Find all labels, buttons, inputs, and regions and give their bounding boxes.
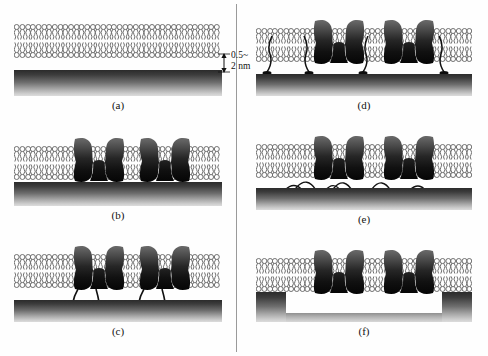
polymer-tethers-d <box>256 36 472 74</box>
membrane-protein <box>382 135 436 181</box>
substrate-b <box>14 182 222 206</box>
caption-b: (b) <box>14 209 222 221</box>
bilayer-inner-leaflet <box>14 41 222 58</box>
membrane-protein <box>72 245 126 291</box>
caption-e: (e) <box>256 213 472 225</box>
gap-annotation-line1: 0.5~ <box>231 50 250 61</box>
trench-wall-right <box>442 292 472 322</box>
caption-d: (d) <box>256 99 472 111</box>
panel-f <box>256 246 472 322</box>
gap-annotation-line2: 2 nm <box>231 61 250 72</box>
panel-d <box>256 16 472 96</box>
membrane-protein <box>312 135 366 181</box>
membrane-protein <box>382 249 436 295</box>
caption-f: (f) <box>256 325 472 337</box>
membrane-protein <box>138 137 192 183</box>
trench-wall-left <box>256 292 286 322</box>
panel-b <box>14 134 222 206</box>
substrate-e <box>256 188 472 210</box>
substrate-d <box>256 74 472 96</box>
trench-floor <box>256 313 472 322</box>
substrate-c <box>14 300 222 322</box>
membrane-protein <box>312 249 366 295</box>
membrane-protein <box>138 245 192 291</box>
substrate-a <box>14 70 222 96</box>
membrane-protein <box>72 137 126 183</box>
panel-c <box>14 242 222 322</box>
panel-e <box>256 132 472 210</box>
substrate-f-trench <box>256 292 472 322</box>
bilayer-outer-leaflet <box>14 24 222 41</box>
panel-a <box>14 24 222 96</box>
caption-c: (c) <box>14 325 222 337</box>
gap-annotation: 0.5~ 2 nm <box>231 50 250 71</box>
figure-root: 0.5~ 2 nm (a) (b) <box>0 0 488 356</box>
lipid-bilayer-a <box>14 24 222 58</box>
caption-a: (a) <box>14 99 222 111</box>
gap-measure-arrow <box>218 52 230 74</box>
